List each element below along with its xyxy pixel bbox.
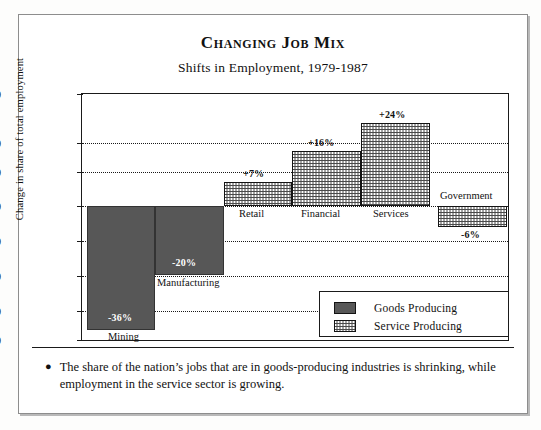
scanned-page: Changing Job Mix Shifts in Employment, 1…: [0, 0, 541, 430]
y-tick-plus20: [77, 143, 83, 144]
y-tick-label-zero: 0: [0, 201, 1, 212]
legend-swatch-goods-icon: [334, 302, 356, 314]
bar-retail[interactable]: [224, 182, 292, 206]
bar-value-financial: +16%: [308, 137, 335, 148]
footnote-text: The share of the nation’s jobs that are …: [60, 359, 500, 393]
gridline-plus20: [82, 143, 508, 144]
legend-item-goods-producing[interactable]: Goods Producing: [334, 300, 457, 315]
bar-label-mining: Mining: [108, 331, 139, 342]
legend-swatch-service-icon: [334, 320, 356, 332]
bar-services[interactable]: [361, 123, 430, 206]
legend: Goods Producing Service Producing: [319, 291, 509, 337]
y-tick-label-plus20: +20: [0, 138, 1, 149]
legend-label-service-producing: Service Producing: [374, 320, 462, 332]
bar-value-retail: +7%: [243, 168, 264, 179]
bar-government[interactable]: [438, 206, 507, 227]
bar-label-retail: Retail: [239, 208, 264, 219]
y-tick-minus10: [77, 241, 83, 242]
y-tick-zero: [77, 206, 83, 207]
legend-label-goods-producing: Goods Producing: [374, 302, 457, 314]
bar-financial[interactable]: [292, 151, 361, 206]
bar-label-services: Services: [373, 208, 409, 219]
y-tick-label-minus30: -30: [0, 306, 1, 317]
chart-subtitle: Shifts in Employment, 1979-1987: [19, 60, 527, 76]
bar-label-financial: Financial: [301, 208, 340, 219]
y-tick-minus20: [77, 276, 83, 277]
figure-frame: Changing Job Mix Shifts in Employment, 1…: [18, 14, 528, 414]
y-tick-label-plus10: +10: [0, 167, 1, 178]
y-tick-minus40: [77, 340, 83, 341]
y-tick-label-minus10: -10: [0, 236, 1, 247]
y-axis-title: Change in share of total employment: [14, 15, 25, 263]
bar-value-government: -6%: [461, 229, 480, 240]
y-tick-plus10: [77, 172, 83, 173]
bar-value-mining: -36%: [108, 312, 132, 323]
bar-value-manufacturing: -20%: [172, 257, 196, 268]
bar-label-government: Government: [440, 190, 493, 201]
bar-value-services: +24%: [379, 109, 406, 120]
chart-title: Changing Job Mix: [19, 33, 527, 53]
footnote: ● The share of the nation’s jobs that ar…: [45, 359, 500, 393]
y-tick-label-minus40: -40: [0, 335, 1, 346]
footnote-divider: [32, 347, 514, 348]
bullet-icon: ●: [45, 359, 52, 374]
y-tick-label-plus30: +30: [0, 89, 1, 100]
bar-label-manufacturing: Manufacturing: [157, 277, 219, 288]
legend-item-service-producing[interactable]: Service Producing: [334, 318, 462, 333]
y-tick-label-minus20: -20: [0, 271, 1, 282]
y-tick-plus30: [77, 94, 83, 95]
y-tick-minus30: [77, 311, 83, 312]
